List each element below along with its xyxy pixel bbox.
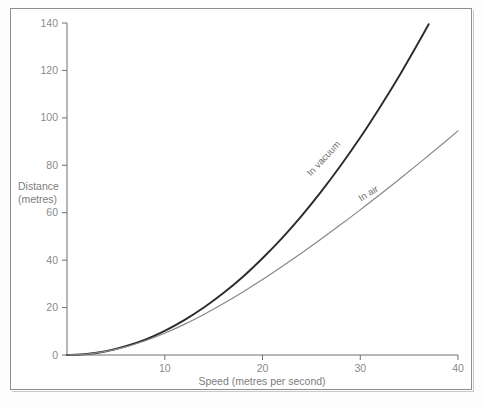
curve-label-in-air: In air [356,183,380,204]
y-tick-label: 140 [40,17,58,29]
x-axis-title: Speed (metres per second) [198,375,325,387]
x-tick-label: 40 [452,362,464,374]
y-axis-units: (metres) [18,193,57,205]
y-tick-label: 40 [46,254,58,266]
y-tick-label: 120 [40,64,58,76]
y-tick-label: 80 [46,159,58,171]
series-line-in-air [67,131,458,355]
chart-series-group [67,24,458,355]
y-tick-label: 20 [46,301,58,313]
x-tick-label: 20 [257,362,269,374]
x-tick-label: 30 [354,362,366,374]
y-tick-label: 60 [46,206,58,218]
y-axis-title: Distance [18,180,59,192]
x-tick-label: 10 [159,362,171,374]
chart-page: 020406080100120140 10203040 In vacuumIn … [0,0,483,407]
y-tick-label: 100 [40,111,58,123]
chart-plot-area: 020406080100120140 10203040 In vacuumIn … [0,0,483,407]
y-tick-label: 0 [52,349,58,361]
x-axis-ticks: 10203040 [159,355,464,374]
chart-annotations: In vacuumIn air [305,138,381,203]
axis-lines [67,23,458,355]
